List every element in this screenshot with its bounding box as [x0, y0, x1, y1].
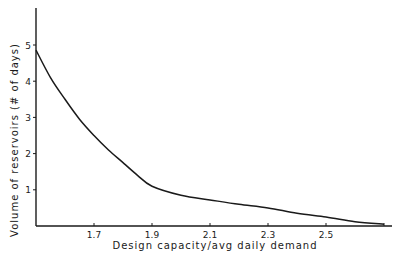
series-line [36, 50, 384, 224]
y-tick-label: 1 [25, 185, 31, 195]
plot-area [36, 50, 384, 224]
y-tick-label: 5 [25, 41, 31, 51]
y-tick-label: 3 [25, 113, 31, 123]
x-tick-label: 1.9 [145, 230, 160, 240]
x-axis: 1.71.92.12.32.5 [36, 223, 392, 240]
x-axis-title: Design capacity/avg daily demand [112, 240, 317, 251]
y-axis: 12345 [25, 8, 36, 226]
x-tick-label: 2.3 [261, 230, 275, 240]
y-tick-label: 4 [25, 77, 31, 87]
y-axis-title: Volume of reservoirs (# of days) [9, 43, 20, 237]
y-tick-label: 2 [25, 149, 31, 159]
x-tick-label: 2.1 [203, 230, 217, 240]
x-tick-label: 1.7 [87, 230, 101, 240]
x-tick-label: 2.5 [319, 230, 333, 240]
reservoir-volume-chart: 12345 1.71.92.12.32.5 Design capacity/av… [0, 0, 402, 265]
